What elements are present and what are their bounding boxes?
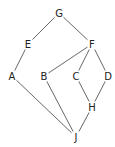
node-c: C [72,71,81,82]
node-label: C [73,71,80,82]
node-label: A [9,71,16,82]
node-d: D [104,71,113,82]
hasse-diagram: GEFABCDHJ [0,0,115,147]
node-h: H [88,102,97,113]
node-e: E [24,39,33,50]
node-label: F [89,39,95,50]
node-j: J [72,132,81,143]
node-label: G [55,8,63,19]
node-label: E [25,39,31,50]
edge-b-j [44,76,76,137]
node-f: F [88,39,97,50]
node-a: A [8,71,17,82]
edge-a-j [12,76,76,137]
node-label: D [104,71,112,82]
edge-f-b [44,44,92,76]
node-b: B [40,71,49,82]
node-label: J [74,132,78,143]
edge-g-f [59,13,92,44]
node-label: B [41,71,48,82]
edges [12,13,108,137]
node-label: H [88,102,96,113]
node-g: G [55,8,64,19]
